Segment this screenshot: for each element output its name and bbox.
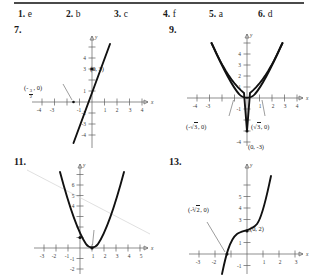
fraction-point-label: (-32, 0) bbox=[24, 84, 42, 91]
y-tick-label: 5 bbox=[239, 194, 242, 200]
x-tick-label: -4 bbox=[193, 103, 198, 109]
point-marker bbox=[246, 130, 249, 133]
problem-11-graph: -3 -2 -1 1 2 3 4 5 4 5 6 -1 -2 x y bbox=[22, 160, 155, 278]
x-tick-label: 1 bbox=[263, 259, 266, 265]
radical-point-label: (-3√2, 0) bbox=[188, 206, 209, 213]
x-tick-label: -3 bbox=[50, 107, 55, 113]
x-tick-label: -2 bbox=[52, 253, 57, 259]
point-marker bbox=[226, 253, 229, 256]
problem-13: 13. bbox=[155, 152, 315, 280]
y-tick-label: -2 bbox=[70, 266, 75, 272]
y-tick-label: 3 bbox=[239, 217, 242, 223]
answer-value: b bbox=[76, 9, 81, 19]
x-tick-label: -3 bbox=[196, 259, 201, 265]
y-axis-label: y bbox=[249, 162, 253, 168]
problem-11: 11. bbox=[0, 152, 155, 280]
y-tick-label: 4 bbox=[83, 55, 86, 61]
problem-13-point-label-0: (-3√2, 0) bbox=[188, 205, 209, 214]
y-tick-label: 6 bbox=[72, 182, 75, 188]
y-tick-label: 3 bbox=[83, 66, 86, 72]
x-tick-label: 4 bbox=[296, 103, 299, 109]
problem-9-point-label-0: (-√3, 0) bbox=[186, 123, 206, 131]
problem-7-number: 7. bbox=[14, 24, 22, 35]
problem-9-point-label-1: (√3, 0) bbox=[251, 123, 269, 131]
x-tick-label: 2 bbox=[104, 253, 107, 259]
answer-item-1: 1.e bbox=[18, 8, 32, 20]
point-marker bbox=[78, 236, 81, 239]
y-tick-label: 4 bbox=[239, 205, 242, 211]
problem-9-point-label-2: (0, -3) bbox=[248, 143, 264, 151]
y-tick-label: -1 bbox=[70, 256, 75, 262]
x-axis-label: x bbox=[305, 95, 309, 101]
answer-number: 3. bbox=[114, 9, 121, 19]
answer-number: 2. bbox=[66, 9, 73, 19]
radical-point-label: (-√3, 0) bbox=[186, 123, 206, 130]
x-tick-label: -1 bbox=[65, 253, 70, 259]
x-tick-label: 5 bbox=[140, 253, 143, 259]
problem-7: 7. bbox=[0, 24, 155, 152]
page-top-rule bbox=[14, 2, 304, 4]
y-tick-label: -4 bbox=[82, 132, 87, 138]
radical-point-label: (√3, 0) bbox=[251, 123, 269, 130]
problem-9-number: 9. bbox=[169, 24, 177, 35]
answer-value: d bbox=[268, 9, 273, 19]
x-tick-label: -3 bbox=[206, 103, 211, 109]
x-tick-label: 3 bbox=[129, 107, 132, 113]
problem-9: 9. bbox=[155, 24, 315, 152]
point-marker bbox=[90, 246, 93, 249]
y-tick-label: 4 bbox=[238, 51, 241, 57]
problem-13-point-label-1: (0, 2) bbox=[250, 225, 264, 233]
answer-number: 1. bbox=[18, 9, 25, 19]
x-axis-label: x bbox=[305, 251, 309, 257]
answer-number: 4. bbox=[163, 9, 170, 19]
problem-7-point-label-1: (-32, 0) bbox=[24, 84, 42, 99]
x-tick-label: 3 bbox=[116, 253, 119, 259]
x-tick-label: -4 bbox=[37, 107, 42, 113]
x-tick-label: 2 bbox=[279, 259, 282, 265]
answer-item-4: 4.f bbox=[163, 8, 176, 20]
answer-value: e bbox=[28, 9, 32, 19]
y-axis-label: y bbox=[82, 162, 86, 168]
x-tick-label: 3 bbox=[284, 103, 287, 109]
x-tick-label: -3 bbox=[40, 253, 45, 259]
x-axis-label: x bbox=[150, 245, 154, 251]
problem-9-graph: -4 -3 1 2 3 4 1 2 3 4 -1 -4 x y bbox=[177, 30, 310, 150]
answer-value: f bbox=[173, 9, 176, 19]
x-tick-label: 2 bbox=[272, 103, 275, 109]
answer-item-5: 5.a bbox=[209, 8, 223, 20]
x-tick-label: -2 bbox=[212, 259, 217, 265]
x-tick-label: 1 bbox=[104, 107, 107, 113]
point-marker bbox=[72, 101, 75, 104]
problem-13-graph: -3 -2 1 2 3 1 3 4 5 -1 x y bbox=[177, 160, 310, 278]
y-tick-label: 1 bbox=[83, 88, 86, 94]
x-tick-label: 4 bbox=[141, 107, 144, 113]
point-marker bbox=[246, 230, 249, 233]
answer-value: a bbox=[219, 9, 223, 19]
y-tick-label: 3 bbox=[238, 62, 241, 68]
y-tick-label: -1 bbox=[237, 263, 242, 269]
problem-7-point-label-0: (0, 3) bbox=[90, 65, 104, 73]
x-tick-label: 1 bbox=[92, 253, 95, 259]
answer-item-3: 3.c bbox=[114, 8, 128, 20]
answer-number: 5. bbox=[209, 9, 216, 19]
y-tick-label: 4 bbox=[72, 203, 75, 209]
answer-item-2: 2.b bbox=[66, 8, 80, 20]
y-tick-label: 1 bbox=[239, 240, 242, 246]
y-tick-label: 5 bbox=[72, 193, 75, 199]
x-tick-label: 4 bbox=[128, 253, 131, 259]
answer-number: 6. bbox=[258, 9, 265, 19]
x-axis-label: x bbox=[150, 99, 154, 105]
x-tick-label: 3 bbox=[295, 259, 298, 265]
y-axis-label: y bbox=[94, 34, 98, 40]
answer-key-page: 1.e 2.b 3.c 4.f 5.a 6.d 7. bbox=[0, 0, 315, 280]
matching-answers-row: 1.e 2.b 3.c 4.f 5.a 6.d bbox=[18, 8, 303, 22]
x-tick-label: 1 bbox=[259, 103, 262, 109]
y-tick-label: 2 bbox=[238, 73, 241, 79]
y-tick-label: -1 bbox=[237, 106, 242, 112]
y-axis-label: y bbox=[249, 32, 253, 38]
answer-item-6: 6.d bbox=[258, 8, 272, 20]
x-tick-label: 2 bbox=[116, 107, 119, 113]
y-tick-label: -4 bbox=[237, 139, 242, 145]
answer-value: c bbox=[124, 9, 128, 19]
